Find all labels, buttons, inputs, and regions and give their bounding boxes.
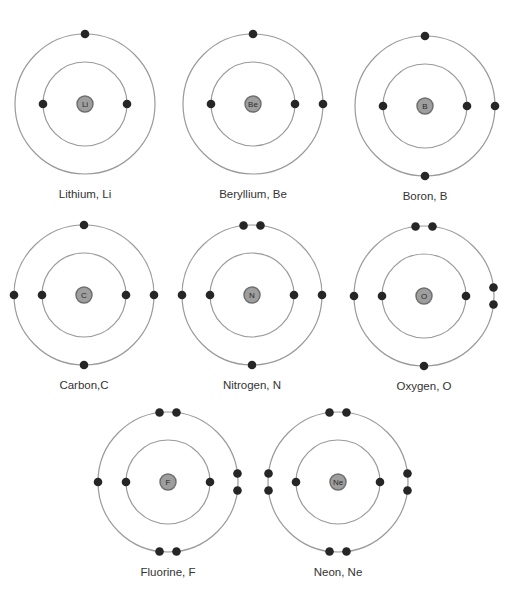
electron — [403, 469, 412, 478]
electron — [379, 102, 388, 111]
electron — [291, 100, 300, 109]
electron — [403, 486, 412, 495]
electron — [264, 469, 273, 478]
atom-caption: Oxygen, O — [397, 380, 452, 392]
atom-lithium: LiLithium, Li — [15, 30, 155, 200]
electron — [248, 361, 257, 370]
electron — [376, 478, 385, 487]
element-symbol: Be — [248, 100, 258, 109]
electron — [411, 222, 420, 231]
electron — [491, 102, 500, 111]
electron — [318, 291, 327, 300]
electron — [489, 300, 498, 309]
atom-caption: Boron, B — [403, 190, 448, 202]
electron — [292, 478, 301, 487]
electron — [80, 221, 89, 230]
electron — [239, 221, 248, 230]
electron — [428, 222, 437, 231]
electron — [10, 291, 19, 300]
atom-caption: Neon, Ne — [314, 566, 363, 578]
element-symbol: F — [166, 478, 171, 487]
electron — [421, 32, 430, 41]
electron — [122, 478, 131, 487]
atom-caption: Carbon,C — [59, 379, 108, 391]
atom-carbon: CCarbon,C — [10, 221, 159, 391]
electron — [290, 291, 299, 300]
electron — [150, 291, 159, 300]
atom-beryllium: BeBeryllium, Be — [183, 30, 327, 200]
electron — [463, 102, 472, 111]
element-symbol: O — [421, 292, 427, 301]
electron — [319, 100, 328, 109]
atom-fluorine: FFluorine, F — [94, 408, 242, 578]
electron — [350, 292, 359, 301]
electron — [80, 361, 89, 370]
electron — [39, 100, 48, 109]
electron — [462, 292, 471, 301]
electron — [207, 100, 216, 109]
electron — [233, 469, 242, 478]
electron — [206, 291, 215, 300]
atom-caption: Nitrogen, N — [223, 379, 281, 391]
electron — [342, 408, 351, 417]
bohr-diagram: LiLithium, LiBeBeryllium, BeBBoron, BCCa… — [0, 0, 519, 599]
electron — [94, 478, 103, 487]
electron — [172, 547, 181, 556]
electron — [81, 30, 90, 39]
electron — [178, 291, 187, 300]
electron — [342, 547, 351, 556]
electron — [256, 221, 265, 230]
atom-nitrogen: NNitrogen, N — [178, 221, 327, 391]
atom-caption: Fluorine, F — [141, 566, 196, 578]
electron — [264, 486, 273, 495]
electron — [325, 547, 334, 556]
electron — [123, 100, 132, 109]
electron — [233, 486, 242, 495]
element-symbol: N — [249, 291, 255, 300]
electron — [378, 292, 387, 301]
atom-boron: BBoron, B — [355, 32, 499, 202]
electron — [172, 408, 181, 417]
atom-oxygen: OOxygen, O — [350, 222, 498, 392]
element-symbol: Ne — [333, 478, 344, 487]
electron — [38, 291, 47, 300]
electron — [325, 408, 334, 417]
electron — [155, 408, 164, 417]
electron — [489, 283, 498, 292]
electron — [421, 172, 430, 181]
element-symbol: B — [422, 102, 427, 111]
element-symbol: Li — [82, 100, 88, 109]
electron — [420, 362, 429, 371]
electron — [155, 547, 164, 556]
atom-neon: NeNeon, Ne — [264, 408, 412, 578]
electron — [206, 478, 215, 487]
atom-caption: Lithium, Li — [59, 188, 111, 200]
electron — [249, 30, 258, 39]
electron — [122, 291, 131, 300]
element-symbol: C — [81, 291, 87, 300]
atom-caption: Beryllium, Be — [219, 188, 287, 200]
